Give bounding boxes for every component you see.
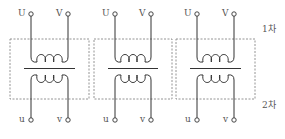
terminal-label-V: V	[56, 9, 63, 18]
terminal-icon	[195, 118, 199, 122]
secondary-winding	[115, 75, 151, 118]
secondary-winding	[197, 75, 234, 118]
transformer-unit-1	[10, 12, 89, 122]
terminal-label-U: U	[184, 9, 192, 18]
terminal-icon	[149, 118, 153, 122]
terminal-label-v: v	[223, 115, 228, 124]
terminal-icon	[149, 12, 153, 16]
secondary-winding	[31, 75, 68, 118]
primary-side-label: 1차	[262, 25, 276, 34]
terminal-icon	[195, 12, 199, 16]
terminal-label-u: u	[103, 115, 109, 124]
terminal-label-u: u	[19, 115, 25, 124]
terminal-icon	[29, 12, 33, 16]
terminal-icon	[66, 12, 70, 16]
terminal-icon	[232, 118, 236, 122]
terminal-icon	[113, 12, 117, 16]
terminal-icon	[66, 118, 70, 122]
secondary-side-label: 2차	[262, 101, 276, 110]
terminal-icon	[29, 118, 33, 122]
terminal-label-v: v	[57, 115, 62, 124]
terminal-label-U: U	[102, 9, 110, 18]
terminal-icon	[232, 12, 236, 16]
terminal-label-V: V	[222, 9, 229, 18]
terminal-label-u: u	[185, 115, 191, 124]
terminal-icon	[113, 118, 117, 122]
transformer-unit-3	[176, 12, 255, 122]
terminal-label-V: V	[139, 9, 146, 18]
terminal-label-U: U	[18, 9, 26, 18]
terminal-label-v: v	[140, 115, 145, 124]
transformer-unit-2	[94, 12, 172, 122]
